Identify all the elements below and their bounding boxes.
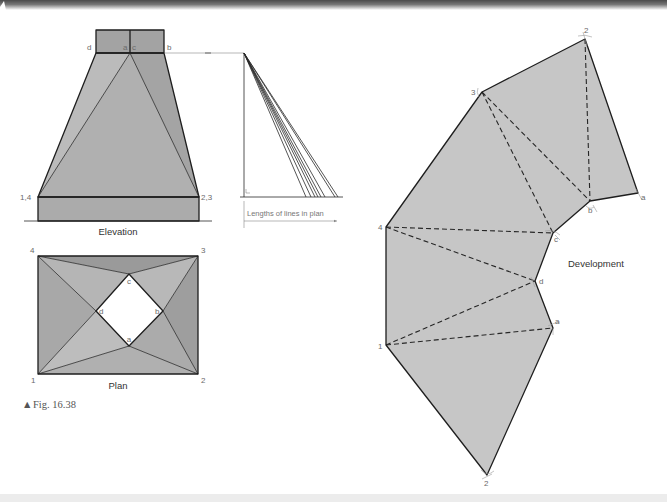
page-header-band bbox=[0, 0, 667, 10]
elevation-label-c: c bbox=[132, 43, 136, 52]
development-title: Development bbox=[568, 258, 624, 269]
development-label-3: 3 bbox=[471, 88, 476, 97]
elevation-label-d: d bbox=[87, 43, 91, 52]
lengths-of-lines-label: Lengths of lines in plan bbox=[247, 209, 324, 218]
development-label-c: c bbox=[554, 235, 558, 244]
development-label-2-top: 2 bbox=[584, 26, 589, 35]
elevation-label-a: a bbox=[123, 43, 128, 52]
elevation-title: Elevation bbox=[98, 226, 137, 237]
development-label-b: b bbox=[588, 206, 593, 215]
development-view: 2 3 4 1 2 a d c b a Development bbox=[378, 26, 646, 488]
development-label-4: 4 bbox=[378, 223, 383, 232]
plan-label-d: d bbox=[99, 307, 103, 316]
plan-label-c: c bbox=[127, 277, 131, 286]
plan-label-2: 2 bbox=[201, 376, 206, 385]
caption-marker-icon: ▲ bbox=[22, 399, 32, 410]
elevation-label-2-3: 2,3 bbox=[201, 193, 213, 202]
plan-view: 4 3 1 2 c d b a Plan bbox=[30, 246, 206, 391]
elevation-label-1-4: 1,4 bbox=[20, 193, 32, 202]
development-label-a-upper: a bbox=[641, 193, 646, 202]
elevation-label-b: b bbox=[167, 43, 172, 52]
true-length-diagram: Lengths of lines in plan bbox=[240, 53, 343, 228]
plan-label-b: b bbox=[155, 307, 160, 316]
plan-label-4: 4 bbox=[30, 246, 35, 255]
plan-label-1: 1 bbox=[31, 376, 36, 385]
figure-number: Fig. 16.38 bbox=[33, 399, 76, 410]
figure-caption: ▲ Fig. 16.38 bbox=[22, 399, 76, 410]
elevation-view: d a c b 1,4 2,3 Elevation bbox=[20, 30, 244, 237]
development-label-1: 1 bbox=[378, 342, 383, 351]
plan-label-3: 3 bbox=[201, 246, 206, 255]
development-label-d: d bbox=[539, 277, 543, 286]
page-footer-band bbox=[0, 494, 667, 502]
figure-canvas: d a c b 1,4 2,3 Elevation Lengths of lin… bbox=[0, 0, 667, 502]
development-label-a-lower: a bbox=[555, 317, 560, 326]
plan-label-a: a bbox=[127, 335, 132, 344]
plan-title: Plan bbox=[108, 380, 127, 391]
development-label-2-bottom: 2 bbox=[484, 479, 489, 488]
